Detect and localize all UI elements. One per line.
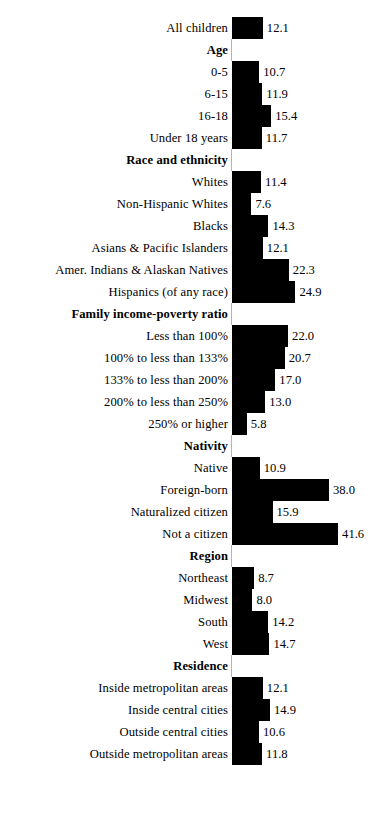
chart-row: 100% to less than 133%20.7 xyxy=(0,347,383,369)
bar-value-label: 12.1 xyxy=(267,237,289,259)
bar xyxy=(232,457,260,479)
chart-row: Less than 100%22.0 xyxy=(0,325,383,347)
section-header-row: Race and ethnicity xyxy=(0,149,383,171)
bar xyxy=(232,325,288,347)
bar-value-label: 8.7 xyxy=(258,567,274,589)
chart-row: Hispanics (of any race)24.9 xyxy=(0,281,383,303)
chart-row: Blacks14.3 xyxy=(0,215,383,237)
bar xyxy=(232,215,268,237)
section-header-row: Nativity xyxy=(0,435,383,457)
category-label: West xyxy=(0,633,228,655)
bar xyxy=(232,17,263,39)
bar-value-label: 10.9 xyxy=(264,457,286,479)
bar xyxy=(232,479,329,501)
bar-value-label: 17.0 xyxy=(279,369,301,391)
bar-value-label: 5.8 xyxy=(251,413,267,435)
category-label: 16-18 xyxy=(0,105,228,127)
bar-value-label: 14.3 xyxy=(272,215,294,237)
bar xyxy=(232,567,254,589)
chart-row: All children12.1 xyxy=(0,17,383,39)
bar xyxy=(232,193,251,215)
bar-value-label: 8.0 xyxy=(256,589,272,611)
bar xyxy=(232,83,262,105)
bar-value-label: 14.7 xyxy=(273,633,295,655)
category-label: South xyxy=(0,611,228,633)
chart-row: Northeast8.7 xyxy=(0,567,383,589)
bar-value-label: 22.3 xyxy=(293,259,315,281)
category-label: Inside central cities xyxy=(0,699,228,721)
chart-row: 16-1815.4 xyxy=(0,105,383,127)
section-header-label: Family income-poverty ratio xyxy=(0,303,228,325)
bar xyxy=(232,391,265,413)
section-header-row: Region xyxy=(0,545,383,567)
bar xyxy=(232,347,285,369)
chart-row: Not a citizen41.6 xyxy=(0,523,383,545)
bar-value-label: 7.6 xyxy=(255,193,271,215)
chart-row: 0-510.7 xyxy=(0,61,383,83)
chart-row: 250% or higher5.8 xyxy=(0,413,383,435)
bar-value-label: 24.9 xyxy=(299,281,321,303)
category-label: Under 18 years xyxy=(0,127,228,149)
bar-value-label: 14.9 xyxy=(274,699,296,721)
section-header-label: Nativity xyxy=(0,435,228,457)
chart-row: Outside central cities10.6 xyxy=(0,721,383,743)
category-label: 6-15 xyxy=(0,83,228,105)
section-header-label: Region xyxy=(0,545,228,567)
bar xyxy=(232,743,262,765)
bar-value-label: 15.9 xyxy=(277,501,299,523)
bar-value-label: 38.0 xyxy=(333,479,355,501)
bar-value-label: 10.6 xyxy=(263,721,285,743)
category-label: Whites xyxy=(0,171,228,193)
bar xyxy=(232,127,262,149)
bar xyxy=(232,523,338,545)
section-header-row: Family income-poverty ratio xyxy=(0,303,383,325)
bar-value-label: 11.8 xyxy=(266,743,288,765)
category-label: Blacks xyxy=(0,215,228,237)
chart-row: Non-Hispanic Whites7.6 xyxy=(0,193,383,215)
category-label: All children xyxy=(0,17,228,39)
bar xyxy=(232,259,289,281)
bar-value-label: 20.7 xyxy=(289,347,311,369)
category-label: Outside metropolitan areas xyxy=(0,743,228,765)
chart-row: West14.7 xyxy=(0,633,383,655)
bar-value-label: 12.1 xyxy=(267,17,289,39)
bar-chart: All children12.1Age0-510.76-1511.916-181… xyxy=(0,0,383,831)
bar xyxy=(232,633,269,655)
bar xyxy=(232,721,259,743)
category-label: Not a citizen xyxy=(0,523,228,545)
chart-row: South14.2 xyxy=(0,611,383,633)
category-label: Inside metropolitan areas xyxy=(0,677,228,699)
bar-value-label: 41.6 xyxy=(342,523,364,545)
bar xyxy=(232,501,273,523)
chart-row: 6-1511.9 xyxy=(0,83,383,105)
bar-value-label: 22.0 xyxy=(292,325,314,347)
section-header-row: Residence xyxy=(0,655,383,677)
bar-value-label: 15.4 xyxy=(275,105,297,127)
chart-plot-area: All children12.1Age0-510.76-1511.916-181… xyxy=(0,0,383,831)
chart-row: Inside metropolitan areas12.1 xyxy=(0,677,383,699)
section-header-label: Residence xyxy=(0,655,228,677)
category-label: Naturalized citizen xyxy=(0,501,228,523)
category-label: Non-Hispanic Whites xyxy=(0,193,228,215)
bar-value-label: 13.0 xyxy=(269,391,291,413)
bar-value-label: 11.9 xyxy=(266,83,288,105)
bar-value-label: 14.2 xyxy=(272,611,294,633)
bar xyxy=(232,413,247,435)
bar-value-label: 12.1 xyxy=(267,677,289,699)
bar xyxy=(232,281,295,303)
section-header-label: Age xyxy=(0,39,228,61)
bar xyxy=(232,369,275,391)
category-label: 200% to less than 250% xyxy=(0,391,228,413)
bar-value-label: 11.4 xyxy=(265,171,287,193)
category-label: Hispanics (of any race) xyxy=(0,281,228,303)
bar xyxy=(232,105,271,127)
chart-row: Foreign-born38.0 xyxy=(0,479,383,501)
chart-row: Under 18 years11.7 xyxy=(0,127,383,149)
chart-row: 200% to less than 250%13.0 xyxy=(0,391,383,413)
bar xyxy=(232,589,252,611)
category-label: Asians & Pacific Islanders xyxy=(0,237,228,259)
category-label: Northeast xyxy=(0,567,228,589)
category-label: Foreign-born xyxy=(0,479,228,501)
chart-row: Whites11.4 xyxy=(0,171,383,193)
chart-row: Midwest8.0 xyxy=(0,589,383,611)
